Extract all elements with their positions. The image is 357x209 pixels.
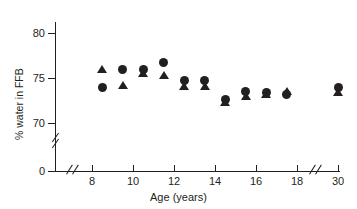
data-point-triangle (241, 92, 251, 100)
data-point-triangle (159, 71, 169, 79)
data-point-triangle (333, 88, 343, 96)
data-point-triangle (118, 81, 128, 89)
data-point-triangle (97, 65, 107, 73)
data-point-triangle (261, 90, 271, 98)
data-point-circle (118, 65, 127, 74)
data-point-triangle (220, 98, 230, 106)
data-markers-layer (0, 0, 357, 209)
data-point-triangle (282, 87, 292, 95)
data-point-triangle (138, 69, 148, 77)
data-point-triangle (179, 82, 189, 90)
chart-container: 80 75 70 0 8 10 12 14 16 18 30 % water i… (0, 0, 357, 209)
data-point-triangle (200, 82, 210, 90)
data-point-circle (98, 83, 107, 92)
data-point-circle (159, 58, 168, 67)
